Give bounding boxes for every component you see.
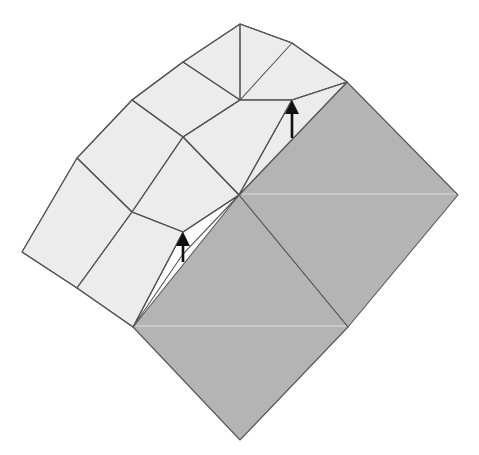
origami-diagram — [0, 0, 479, 455]
diagram-canvas — [0, 0, 479, 455]
